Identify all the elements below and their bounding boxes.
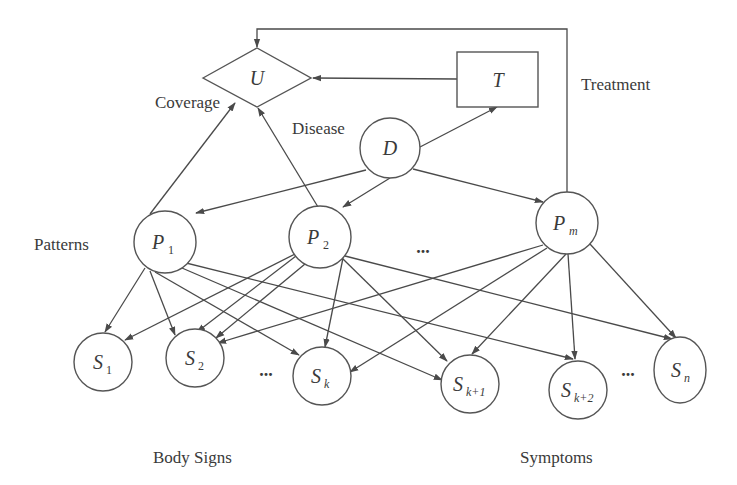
node-p1-sub: 1 xyxy=(168,243,174,257)
edge-p2-sk1 xyxy=(343,259,447,361)
node-sn-sub: n xyxy=(684,371,690,385)
node-p2-sub: 2 xyxy=(323,238,329,252)
ellipsis-symptoms: ... xyxy=(621,360,635,380)
node-d-label: D xyxy=(382,137,398,159)
edge-p1-sk2 xyxy=(170,259,573,359)
node-sk2: S k+2 xyxy=(549,361,607,419)
node-sk-label: S xyxy=(311,365,321,387)
node-p1-label: P xyxy=(151,231,164,253)
node-sk1-sub: k+1 xyxy=(466,385,485,399)
node-s2: S 2 xyxy=(166,329,224,387)
edge-p2-s2a xyxy=(197,256,296,332)
node-t-label: T xyxy=(492,69,505,91)
node-sn-label: S xyxy=(671,359,681,381)
edge-d-p2 xyxy=(343,178,390,207)
ellipsis-signs: ... xyxy=(259,360,273,380)
node-s2-sub: 2 xyxy=(198,359,204,373)
node-s1-sub: 1 xyxy=(106,363,112,377)
bayesian-network-diagram: U T D P 1 P 2 P m S 1 S 2 S k S k+1 xyxy=(0,0,737,485)
label-treatment: Treatment xyxy=(581,75,651,94)
node-sk2-sub: k+2 xyxy=(574,391,593,405)
node-u-label: U xyxy=(250,67,266,89)
node-sk2-label: S xyxy=(561,379,571,401)
node-p2-label: P xyxy=(306,226,319,248)
edge-p1-s1 xyxy=(105,268,145,332)
node-pm-sub: m xyxy=(569,224,578,238)
edge-p2-s2b xyxy=(216,264,305,338)
node-sk-sub: k xyxy=(324,377,330,391)
edge-p2-sn xyxy=(345,256,672,339)
edge-d-t xyxy=(420,107,497,147)
node-t: T xyxy=(457,52,538,107)
node-sn: S n xyxy=(654,337,706,403)
edge-d-pm xyxy=(413,169,543,202)
label-disease: Disease xyxy=(292,119,345,138)
node-pm-label: P xyxy=(552,212,565,234)
node-d: D xyxy=(360,118,420,178)
edge-pm-sn xyxy=(590,244,676,338)
edge-pm-sk1 xyxy=(472,254,566,354)
edge-pm-sk2 xyxy=(568,254,575,359)
node-p2: P 2 xyxy=(289,206,351,268)
edge-d-p1 xyxy=(196,170,366,213)
node-sk1-label: S xyxy=(453,373,463,395)
label-symptoms: Symptoms xyxy=(520,448,593,467)
label-patterns: Patterns xyxy=(34,235,89,254)
node-s1-label: S xyxy=(93,351,103,373)
label-coverage: Coverage xyxy=(155,93,220,112)
ellipsis-patterns: ... xyxy=(416,237,430,257)
label-body-signs: Body Signs xyxy=(153,448,232,467)
node-pm: P m xyxy=(536,192,598,254)
edge-p1-u xyxy=(150,103,235,214)
edge-pm-sk xyxy=(350,248,547,372)
node-s2-label: S xyxy=(185,347,195,369)
node-s1: S 1 xyxy=(74,333,132,391)
node-p1: P 1 xyxy=(134,211,196,273)
node-sk: S k xyxy=(293,347,351,405)
edge-t-u xyxy=(313,78,457,79)
node-sk1: S k+1 xyxy=(441,355,499,413)
